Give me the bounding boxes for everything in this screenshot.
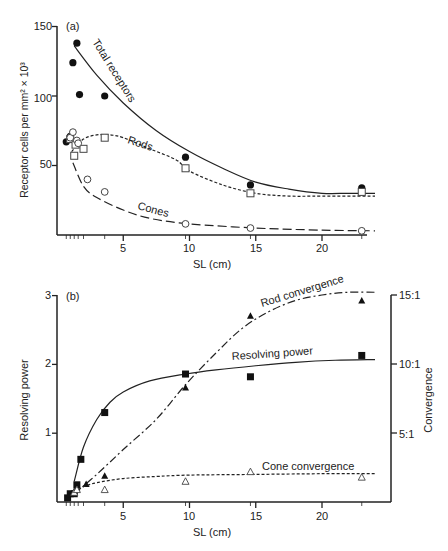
data-point: [358, 227, 365, 234]
panel-a-xtick-20: 20: [316, 242, 328, 254]
panel-a-receptor-density: (a) 150 100 50 5 10 15 20 SL (cm) Recept…: [18, 20, 375, 270]
curve-rods: [72, 134, 375, 196]
panel-a-y-axis-label: Receptor cells per mm² × 10³: [18, 62, 30, 198]
label-cone-convergence: Cone convergence: [262, 460, 354, 472]
data-point: [358, 297, 365, 304]
panel-b-xtick-5: 5: [120, 510, 126, 522]
data-point: [182, 165, 189, 172]
data-point: [101, 92, 108, 99]
panel-b-resolving-power: (b) 3 2 1 15:1 10:1 5:1 5 10 15 20 SL (c…: [18, 272, 434, 538]
data-point: [77, 456, 84, 463]
panel-b-ytick-2: 2: [45, 357, 51, 369]
data-point: [182, 371, 189, 378]
panel-a-xtick-15: 15: [250, 242, 262, 254]
figure: (a) 150 100 50 5 10 15 20 SL (cm) Recept…: [0, 0, 448, 551]
panel-b-x-axis-label: SL (cm): [193, 526, 231, 538]
data-point: [182, 154, 189, 161]
data-point: [80, 145, 87, 152]
panel-a-ytick-50: 50: [40, 158, 52, 170]
data-point: [247, 225, 254, 232]
panel-b-plot-area: [52, 292, 397, 508]
panel-b-y-axis-label: Resolving power: [18, 359, 30, 441]
data-point: [182, 384, 189, 391]
panel-b-ytick-3: 3: [45, 289, 51, 301]
data-point: [101, 472, 108, 479]
data-point: [247, 373, 254, 380]
panel-a-label: (a): [66, 20, 79, 32]
data-point: [247, 181, 254, 188]
panel-b-xtick-10: 10: [183, 510, 195, 522]
data-point: [76, 91, 83, 98]
panel-a-x-axis-label: SL (cm): [193, 258, 231, 270]
data-point: [69, 59, 76, 66]
label-rods: Rods: [126, 133, 155, 153]
data-point: [247, 468, 254, 475]
data-point: [358, 352, 365, 359]
data-point: [71, 152, 78, 159]
panel-b-y2tick-10: 10:1: [399, 358, 420, 370]
panel-b-y2-axis-label: Convergence: [422, 367, 434, 432]
data-point: [73, 40, 80, 47]
data-point: [101, 189, 108, 196]
panel-b-ytick-1: 1: [45, 426, 51, 438]
data-point: [182, 478, 189, 485]
panel-b-y2tick-15: 15:1: [399, 289, 420, 301]
data-point: [182, 220, 189, 227]
panel-b-xtick-20: 20: [316, 510, 328, 522]
data-point: [101, 409, 108, 416]
panel-b-y2tick-5: 5:1: [399, 428, 414, 440]
data-point: [247, 190, 254, 197]
data-point: [358, 188, 365, 195]
data-point: [84, 176, 91, 183]
panel-b-label: (b): [66, 290, 79, 302]
panel-a-ytick-100: 100: [34, 92, 52, 104]
curve-cone-convergence: [74, 474, 375, 493]
label-resolving-power: Resolving power: [231, 344, 313, 362]
data-point: [75, 140, 82, 147]
panel-a-ytick-150: 150: [34, 20, 52, 32]
panel-a-xtick-10: 10: [183, 242, 195, 254]
panel-b-xtick-15: 15: [250, 510, 262, 522]
data-point: [70, 129, 77, 136]
label-rod-convergence: Rod convergence: [259, 272, 345, 309]
data-point: [358, 474, 365, 481]
curve-cones: [73, 163, 375, 231]
data-point: [247, 312, 254, 319]
data-point: [101, 486, 108, 493]
panel-a-xtick-5: 5: [120, 242, 126, 254]
data-point: [101, 134, 108, 141]
